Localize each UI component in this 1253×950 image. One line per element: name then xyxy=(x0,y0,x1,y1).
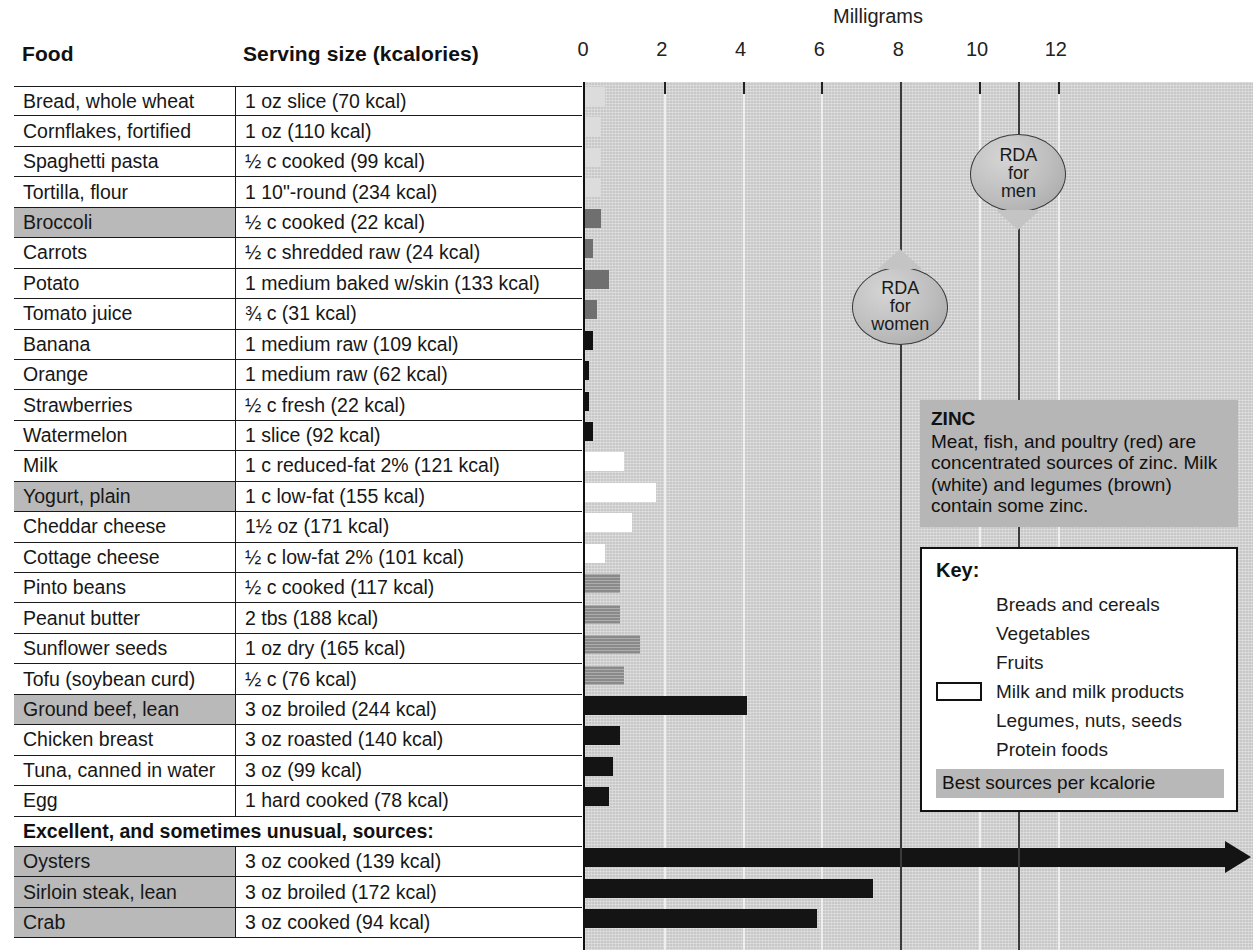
table-row: Watermelon1 slice (92 kcal) xyxy=(14,421,582,451)
table-section-header: Excellent, and sometimes unusual, source… xyxy=(14,817,582,847)
bar-chicken-breast xyxy=(585,726,620,745)
cell-serving: 1 medium raw (109 kcal) xyxy=(236,330,582,359)
cell-food: Watermelon xyxy=(14,421,236,450)
cell-serving: ½ c (76 kcal) xyxy=(236,664,582,693)
table-body: Bread, whole wheat1 oz slice (70 kcal)Co… xyxy=(14,86,582,938)
key-swatch-icon xyxy=(936,740,982,759)
cell-food: Oysters xyxy=(14,847,236,876)
cell-serving: ¾ c (31 kcal) xyxy=(236,299,582,328)
cell-food: Sunflower seeds xyxy=(14,634,236,663)
x-tick-label: 6 xyxy=(814,38,825,61)
cell-food: Chicken breast xyxy=(14,725,236,754)
cell-food: Sirloin steak, lean xyxy=(14,877,236,906)
rda-men-line3: men xyxy=(1001,182,1036,200)
key-label: Milk and milk products xyxy=(996,681,1184,703)
zinc-info-body: Meat, fish, and poultry (red) are concen… xyxy=(931,431,1228,517)
cell-food: Orange xyxy=(14,360,236,389)
cell-serving: 3 oz cooked (94 kcal) xyxy=(236,908,582,937)
cell-serving: 1 c reduced-fat 2% (121 kcal) xyxy=(236,451,582,480)
x-tick-label: 12 xyxy=(1045,38,1067,61)
cell-serving: 1½ oz (171 kcal) xyxy=(236,512,582,541)
gridline xyxy=(821,82,823,950)
cell-food: Broccoli xyxy=(14,208,236,237)
column-header-food: Food xyxy=(22,42,74,66)
cell-serving: 3 oz cooked (139 kcal) xyxy=(236,847,582,876)
key-swatch-icon xyxy=(936,711,982,730)
table-row: Sunflower seeds1 oz dry (165 kcal) xyxy=(14,634,582,664)
key-items: Breads and cerealsVegetablesFruitsMilk a… xyxy=(936,590,1224,764)
cell-serving: 1 10"-round (234 kcal) xyxy=(236,177,582,206)
bar-bread-whole-wheat xyxy=(585,87,605,106)
table-row: Potato1 medium baked w/skin (133 kcal) xyxy=(14,269,582,299)
table-row: Cheddar cheese1½ oz (171 kcal) xyxy=(14,512,582,542)
table-row: Orange1 medium raw (62 kcal) xyxy=(14,360,582,390)
key-label: Breads and cereals xyxy=(996,594,1160,616)
bar-potato xyxy=(585,270,609,289)
bar-tortilla-flour xyxy=(585,178,601,197)
table-row: Tomato juice¾ c (31 kcal) xyxy=(14,299,582,329)
bar-peanut-butter xyxy=(585,605,620,624)
key-label: Fruits xyxy=(996,652,1044,674)
table-row: Egg1 hard cooked (78 kcal) xyxy=(14,786,582,816)
cell-food: Tofu (soybean curd) xyxy=(14,664,236,693)
x-tick-label: 2 xyxy=(656,38,667,61)
cell-food: Carrots xyxy=(14,238,236,267)
bar-cornflakes-fortified xyxy=(585,117,601,136)
bar-spaghetti-pasta xyxy=(585,148,601,167)
table-row: Cornflakes, fortified1 oz (110 kcal) xyxy=(14,116,582,146)
bar-cheddar-cheese xyxy=(585,513,632,532)
cell-food: Peanut butter xyxy=(14,603,236,632)
bar-broccoli xyxy=(585,209,601,228)
cell-food: Tortilla, flour xyxy=(14,177,236,206)
table-row: Banana1 medium raw (109 kcal) xyxy=(14,330,582,360)
bar-ground-beef-lean xyxy=(585,696,747,715)
bar-yogurt-plain xyxy=(585,483,656,502)
bar-tofu-soybean-curd xyxy=(585,666,624,685)
cell-food: Tomato juice xyxy=(14,299,236,328)
cell-food: Ground beef, lean xyxy=(14,695,236,724)
bar-sirloin-steak-lean xyxy=(585,879,873,898)
key-swatch-icon xyxy=(936,624,982,643)
bar-milk xyxy=(585,452,624,471)
cell-food: Cornflakes, fortified xyxy=(14,116,236,145)
cell-serving: 3 oz (99 kcal) xyxy=(236,756,582,785)
table-row: Tortilla, flour1 10"-round (234 kcal) xyxy=(14,177,582,207)
key-swatch-icon xyxy=(936,595,982,614)
key-label: Protein foods xyxy=(996,739,1108,761)
rda-women-line xyxy=(900,82,902,950)
x-tick-label: 10 xyxy=(966,38,988,61)
cell-food: Potato xyxy=(14,269,236,298)
key-best-note: Best sources per kcalorie xyxy=(936,769,1224,798)
cell-serving: 1 medium baked w/skin (133 kcal) xyxy=(236,269,582,298)
cell-serving: 1 oz (110 kcal) xyxy=(236,116,582,145)
x-tick-label: 8 xyxy=(893,38,904,61)
plot-area: RDA for women RDA for men ZINC Meat, fis… xyxy=(583,82,1253,950)
table-row: Oysters3 oz cooked (139 kcal) xyxy=(14,847,582,877)
x-tick-label: 0 xyxy=(577,38,588,61)
cell-food: Tuna, canned in water xyxy=(14,756,236,785)
bar-banana xyxy=(585,331,593,350)
rda-women-line2: for xyxy=(890,297,911,315)
table-row: Spaghetti pasta½ c cooked (99 kcal) xyxy=(14,147,582,177)
table-row: Crab3 oz cooked (94 kcal) xyxy=(14,908,582,938)
key-row: Milk and milk products xyxy=(936,677,1224,706)
cell-serving: ½ c shredded raw (24 kcal) xyxy=(236,238,582,267)
key-row: Legumes, nuts, seeds xyxy=(936,706,1224,735)
cell-food: Cottage cheese xyxy=(14,543,236,572)
key-row: Protein foods xyxy=(936,735,1224,764)
cell-serving: 1 oz slice (70 kcal) xyxy=(236,87,582,115)
column-header-serving: Serving size (kcalories) xyxy=(243,42,479,66)
rda-women-line1: RDA xyxy=(881,279,919,297)
cell-food: Strawberries xyxy=(14,390,236,419)
bar-strawberries xyxy=(585,392,589,411)
cell-food: Yogurt, plain xyxy=(14,482,236,511)
bar-sunflower-seeds xyxy=(585,635,640,654)
bar-crab xyxy=(585,909,817,928)
cell-serving: ½ c low-fat 2% (101 kcal) xyxy=(236,543,582,572)
key-swatch-icon xyxy=(936,653,982,672)
table-row: Bread, whole wheat1 oz slice (70 kcal) xyxy=(14,86,582,116)
key-row: Fruits xyxy=(936,648,1224,677)
cell-serving: 3 oz roasted (140 kcal) xyxy=(236,725,582,754)
rda-women-bubble: RDA for women xyxy=(852,267,948,345)
cell-food: Milk xyxy=(14,451,236,480)
